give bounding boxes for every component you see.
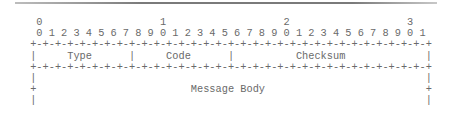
top-horizontal-rule — [15, 2, 437, 4]
header-top-border: +-+-+-+-+-+-+-+-+-+-+-+-+-+-+-+-+-+-+-+-… — [24, 39, 432, 50]
message-body-row-bottom: | | — [24, 95, 432, 106]
packet-header-diagram: 0 1 2 3 0 1 2 3 4 5 6 7 8 9 0 1 2 3 4 5 … — [24, 17, 432, 107]
